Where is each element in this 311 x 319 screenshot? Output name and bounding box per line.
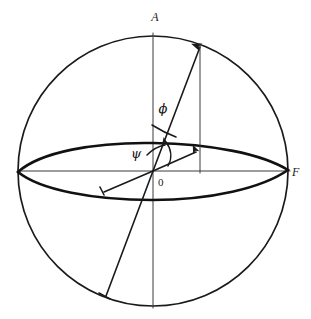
label-origin: 0 [158, 176, 164, 188]
psi-angle-arc [166, 142, 171, 166]
equatorial-projection-group [100, 152, 196, 195]
label-equator-right: F [291, 165, 300, 179]
radius-vector-extension-line [106, 171, 153, 296]
label-pole-axis: A [150, 10, 159, 24]
phi-angle-arc [152, 125, 176, 137]
diagram-canvas: A F 0 ϕ ψ [0, 0, 311, 319]
label-azimuth-angle-psi: ψ [131, 146, 142, 161]
polar-angle-arc-group [152, 125, 176, 137]
spherical-coordinates-figure: A F 0 ϕ ψ [0, 0, 311, 319]
label-polar-angle-phi: ϕ [159, 101, 168, 116]
azimuth-reference-end-tick [100, 187, 104, 195]
